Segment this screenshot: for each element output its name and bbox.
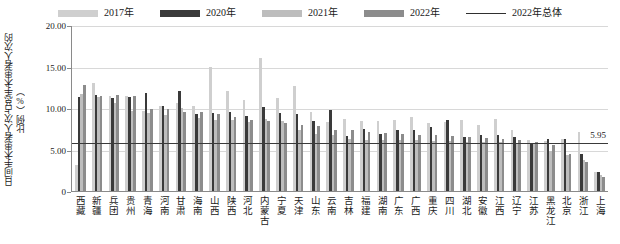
legend-swatch-marker [262,10,302,17]
x-axis-label: 山东 [309,196,320,244]
bar-group[interactable] [524,26,541,191]
bar-group[interactable] [474,26,491,191]
bar-group[interactable] [206,26,223,191]
bar [451,136,454,191]
x-axis-label: 河南 [158,196,169,244]
bar-group[interactable] [441,26,458,191]
bar [234,117,237,191]
plot-canvas: 5.95 [71,26,608,192]
x-axis-cell: 江苏 [524,196,541,244]
x-axis-cell: 云南 [323,196,340,244]
bar-group[interactable] [390,26,407,191]
bar-group[interactable] [89,26,106,191]
bar-group[interactable] [457,26,474,191]
x-axis-cell: 河南 [155,196,172,244]
bar-group[interactable] [72,26,89,191]
bar [217,114,220,191]
bar-group[interactable] [173,26,190,191]
x-axis-cell: 陕西 [222,196,239,244]
bar [133,96,136,191]
bar-group[interactable] [139,26,156,191]
bar [83,85,86,191]
legend-label: 2017年 [104,8,134,18]
x-axis-cell: 湖北 [457,196,474,244]
legend-2020[interactable]: 2020年 [160,8,236,18]
x-axis-cell: 河北 [239,196,256,244]
bar-group[interactable] [273,26,290,191]
bar-group[interactable] [156,26,173,191]
bar-group[interactable] [575,26,592,191]
bar-group[interactable] [407,26,424,191]
x-axis-cell: 天津 [289,196,306,244]
x-axis-label: 江苏 [527,196,538,244]
y-tick-mark [67,192,71,193]
legend-2021[interactable]: 2021年 [262,8,338,18]
legend-2017[interactable]: 2017年 [58,8,134,18]
bar [569,154,572,191]
bar-group[interactable] [591,26,608,191]
reference-line-value: 5.95 [590,131,606,140]
bar-group[interactable] [106,26,123,191]
bar [334,130,337,191]
bar [250,120,253,191]
x-axis-cell: 湖南 [373,196,390,244]
bar-group[interactable] [223,26,240,191]
bar-group[interactable] [340,26,357,191]
bar-group[interactable] [541,26,558,191]
legend-label: 2022年总体 [512,8,562,18]
x-axis-label: 甘肃 [175,196,186,244]
x-axis-cell: 江西 [491,196,508,244]
bar [301,125,304,191]
y-tick-label: 10.00 [28,105,66,114]
bar-group[interactable] [357,26,374,191]
x-axis-cell: 宁夏 [272,196,289,244]
bar [585,162,588,191]
y-tick-label: 20.00 [28,22,66,31]
bar [317,126,320,191]
x-axis-cell: 吉林 [340,196,357,244]
x-axis-cell: 上海 [591,196,608,244]
bar-groups [72,26,608,191]
x-axis-label: 云南 [326,196,337,244]
x-axis-cell: 内蒙古 [256,196,273,244]
x-axis-cell: 山东 [306,196,323,244]
bar-group[interactable] [491,26,508,191]
bar [284,123,287,191]
bar-group[interactable] [323,26,340,191]
x-axis-label: 重庆 [427,196,438,244]
legend-2022[interactable]: 2022年 [364,8,440,18]
bar-group[interactable] [307,26,324,191]
x-axis-cell: 安徽 [474,196,491,244]
bar [535,142,538,191]
x-axis-cell: 重庆 [423,196,440,244]
bar [267,121,270,191]
x-axis-label: 广西 [410,196,421,244]
legend-label: 2021年 [308,8,338,18]
bar [485,138,488,191]
bar-group[interactable] [508,26,525,191]
bar-group[interactable] [256,26,273,191]
y-tick-label: 15.00 [28,64,66,73]
bar-group[interactable] [374,26,391,191]
legend-swatch-marker [364,10,404,17]
x-axis-cell: 贵州 [121,196,138,244]
bar-group[interactable] [558,26,575,191]
x-axis-label: 广东 [393,196,404,244]
x-axis-label: 青海 [141,196,152,244]
bar [602,177,605,191]
bar-group[interactable] [189,26,206,191]
bar-group[interactable] [122,26,139,191]
bar-group[interactable] [424,26,441,191]
x-axis-label: 新疆 [91,196,102,244]
bar [552,145,555,191]
legend-swatch-marker [160,10,200,17]
x-axis-cell: 辽宁 [507,196,524,244]
bar [502,139,505,191]
bar-group[interactable] [240,26,257,191]
legend-2022-overall[interactable]: 2022年总体 [466,8,562,18]
y-tick-label: 0 [28,188,66,197]
x-axis-cell: 兵团 [105,196,122,244]
y-axis-title: 日间手术患者人次占总手术患者人次的比例（%） [1,30,27,190]
bar-group[interactable] [290,26,307,191]
x-axis-label: 宁夏 [276,196,287,244]
